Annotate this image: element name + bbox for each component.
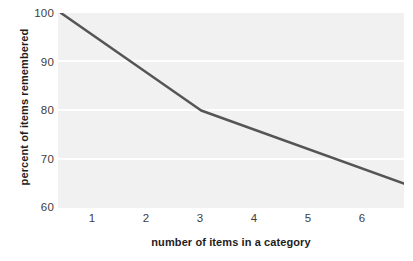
- x-tick-label: 4: [242, 211, 266, 225]
- x-axis-title: number of items in a category: [58, 236, 404, 248]
- x-tick-label: 1: [80, 211, 104, 225]
- plot-area: [58, 13, 404, 208]
- x-tick-label: 2: [134, 211, 158, 225]
- x-axis-ticks: 1 2 3 4 5 6: [0, 211, 413, 227]
- x-tick-label: 3: [188, 211, 212, 225]
- data-series-line: [58, 13, 404, 208]
- y-axis-title: percent of items remembered: [18, 7, 30, 207]
- x-tick-label: 6: [350, 211, 374, 225]
- line-chart: 100 90 80 70 60 1 2 3 4 5 6 number of it…: [0, 0, 413, 261]
- x-tick-label: 5: [296, 211, 320, 225]
